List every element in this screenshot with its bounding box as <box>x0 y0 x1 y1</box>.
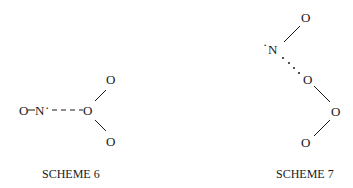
scheme6-atom-n: N <box>35 103 45 118</box>
scheme7-dotted-interaction <box>282 57 300 74</box>
scheme6-atom-o-bottom: O <box>106 134 115 149</box>
scheme-6: O N · O O O SCHEME 6 <box>19 72 115 181</box>
dot <box>282 57 284 59</box>
dot <box>288 62 290 64</box>
scheme7-label: SCHEME 7 <box>276 167 334 181</box>
scheme7-atom-o-top: O <box>301 10 310 25</box>
scheme6-atom-o-top: O <box>106 72 115 87</box>
scheme6-label: SCHEME 6 <box>42 167 100 181</box>
scheme6-atom-o-left: O <box>19 103 28 118</box>
scheme7-atom-o-right: O <box>331 104 340 119</box>
scheme7-bond-middle-right <box>314 86 330 102</box>
dot <box>298 72 300 74</box>
scheme6-bond-center-top <box>95 90 106 101</box>
dot <box>293 67 295 69</box>
scheme6-bond-center-bottom <box>95 120 106 131</box>
schemes-svg: O N · O O O SCHEME 6 O · N O <box>0 0 353 188</box>
scheme7-atom-n: N <box>268 42 278 57</box>
scheme7-atom-o-bottom: O <box>301 135 310 150</box>
scheme6-atom-o-center: O <box>83 103 92 118</box>
scheme7-atom-o-middle: O <box>303 72 312 87</box>
scheme-7: O · N O O O SCHEME 7 <box>263 10 340 181</box>
scheme7-radical-dot: · <box>263 37 267 52</box>
scheme6-radical-dot: · <box>45 100 49 115</box>
schemes-figure: O N · O O O SCHEME 6 O · N O <box>0 0 353 188</box>
scheme7-bond-n-o-top <box>284 26 300 42</box>
scheme7-bond-right-bottom <box>314 120 330 136</box>
